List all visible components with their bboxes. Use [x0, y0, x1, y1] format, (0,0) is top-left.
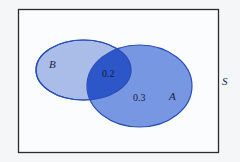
- set-b-label: B: [49, 59, 56, 70]
- a-only-value: 0.3: [133, 93, 146, 103]
- intersection-value: 0.2: [102, 69, 115, 79]
- universe-label: S: [222, 76, 228, 87]
- venn-diagram: [0, 0, 240, 162]
- set-a-label: A: [169, 91, 176, 102]
